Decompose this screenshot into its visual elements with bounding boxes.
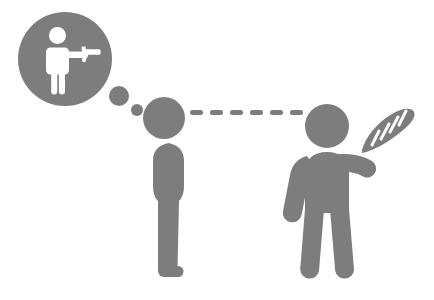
right-figure-right-leg [330, 209, 354, 279]
inner-figure-gun-hammer-icon [82, 47, 86, 50]
sight-dash [190, 110, 203, 115]
baguette-body [362, 109, 415, 153]
inner-figure-rear-arm [47, 48, 53, 68]
right-figure-head-icon [305, 104, 349, 148]
sight-line-dashes [190, 110, 303, 115]
left-figure-legs [158, 195, 172, 277]
thought-trail-dot-small [131, 104, 143, 116]
sight-dash [270, 110, 283, 115]
baguette-icon [362, 109, 415, 153]
inner-figure-right-leg [59, 71, 65, 95]
inner-figure-head-icon [49, 27, 66, 44]
thought-trail-dot-large [109, 86, 129, 106]
illustration-canvas: Pictogram: person imagining a gun while … [0, 0, 434, 300]
sight-dash [230, 110, 243, 115]
sight-dash [290, 110, 303, 115]
sight-dash [250, 110, 263, 115]
right-figure-left-leg [300, 209, 324, 279]
left-figure-head-icon [143, 97, 185, 139]
left-figure-foot [170, 266, 184, 277]
inner-figure-left-leg [51, 71, 57, 95]
left-figure [143, 97, 185, 277]
sight-dash [210, 110, 223, 115]
thought-bubble [18, 12, 112, 106]
pictogram-illustration: Pictogram: person imagining a gun while … [0, 0, 434, 300]
thought-bubble-trail [109, 86, 143, 116]
right-figure [283, 104, 376, 279]
